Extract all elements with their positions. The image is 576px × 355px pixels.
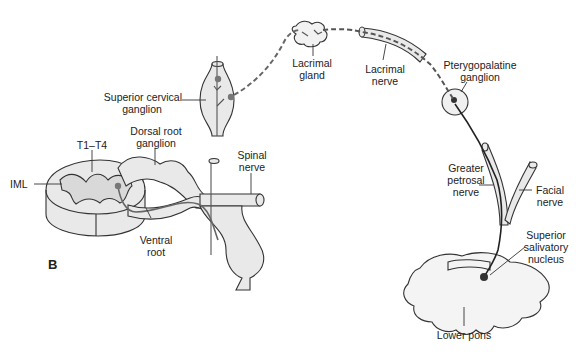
label-line: Lacrimal: [290, 57, 334, 69]
label-line: nerve: [532, 196, 568, 208]
label-line: nerve: [232, 161, 272, 173]
label-line: ganglion: [102, 103, 182, 115]
label-spinal-nerve: Spinal nerve: [232, 149, 272, 173]
label-line: ganglion: [128, 137, 184, 149]
label-line: nerve: [446, 186, 486, 198]
label-line: Superior cervical: [102, 91, 182, 103]
label-superior-cervical-ganglion: Superior cervical ganglion: [102, 91, 182, 115]
label-superior-salivatory-nucleus: Superior salivatory nucleus: [520, 229, 572, 265]
label-line: Dorsal root: [128, 125, 184, 137]
label-ventral-root: Ventral root: [136, 234, 176, 258]
superior-cervical-ganglion: [200, 56, 234, 136]
label-line: Greater: [446, 162, 486, 174]
label-greater-petrosal-nerve: Greater petrosal nerve: [446, 162, 486, 198]
label-lacrimal-nerve: Lacrimal nerve: [363, 63, 407, 87]
label-line: Pterygopalatine: [440, 59, 520, 71]
iml-neuron-body: [115, 183, 121, 189]
label-line: petrosal: [446, 174, 486, 186]
pterygopalatine-ganglion: [442, 89, 468, 115]
label-pterygopalatine-ganglion: Pterygopalatine ganglion: [440, 59, 520, 83]
label-t1-t4: T1–T4: [74, 139, 110, 151]
label-lower-pons: Lower pons: [434, 329, 494, 341]
lacrimal-nerve: [359, 27, 426, 62]
superior-salivatory-nucleus-body: [480, 273, 488, 281]
label-line: gland: [290, 69, 334, 81]
label-line: Lacrimal: [363, 63, 407, 75]
label-iml: IML: [10, 178, 28, 190]
diagram-canvas: [0, 0, 576, 355]
label-line: Ventral: [136, 234, 176, 246]
label-line: root: [136, 246, 176, 258]
label-line: nerve: [363, 75, 407, 87]
label-facial-nerve: Facial nerve: [532, 184, 568, 208]
label-line: nucleus: [520, 253, 572, 265]
lacrimal-gland: [292, 21, 327, 47]
label-line: Spinal: [232, 149, 272, 161]
label-line: Superior: [520, 229, 572, 241]
label-line: ganglion: [440, 71, 520, 83]
label-dorsal-root-ganglion: Dorsal root ganglion: [128, 125, 184, 149]
label-line: salivatory: [520, 241, 572, 253]
label-line: Facial: [532, 184, 568, 196]
spinal-nerve: [200, 159, 264, 291]
panel-label: B: [48, 257, 57, 272]
lacrimal-innervation-diagram: Superior cervical ganglion Dorsal root g…: [0, 0, 576, 355]
label-lacrimal-gland: Lacrimal gland: [290, 57, 334, 81]
